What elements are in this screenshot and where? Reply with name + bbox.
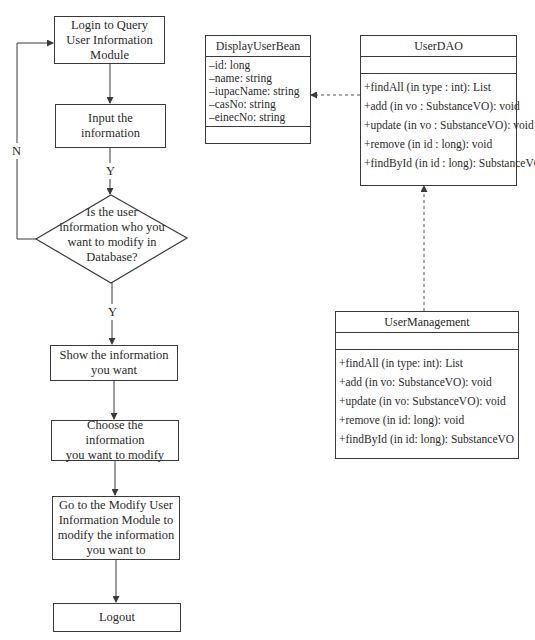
class-name: UserDAO: [361, 36, 516, 57]
step-input-line: information: [81, 126, 140, 141]
decision-line: Is the user: [50, 205, 174, 220]
step-show-line: Show the information: [59, 348, 168, 363]
class-name: UserManagement: [336, 312, 518, 333]
operation: +add (in vo: SubstanceVO): void: [339, 373, 515, 392]
label-yes-input: Y: [106, 163, 115, 179]
step-choose-line: Choose the information: [56, 418, 174, 448]
step-input: Input the information: [55, 104, 166, 148]
class-operations: +findAll (in type: int): List +add (in v…: [336, 350, 518, 453]
operation: +update (in vo: SubstanceVO): void: [339, 392, 515, 411]
operation: +add (in vo : SubstanceVO): void: [364, 97, 513, 116]
class-display-user-bean: DisplayUserBean –id: long –name: string …: [205, 35, 311, 144]
class-attributes: [336, 333, 518, 350]
decision-line: want to modify in: [50, 235, 174, 250]
step-modify-line: you want to: [58, 543, 175, 558]
operation: +findById (in id : long): SubstanceVO: [364, 154, 513, 173]
operation: +findAll (in type: int): List: [339, 354, 515, 373]
step-choose: Choose the information you want to modif…: [51, 420, 179, 461]
attribute: –id: long: [209, 59, 307, 72]
step-login-line: Login to Query: [66, 18, 152, 33]
step-show-line: you want: [59, 363, 168, 378]
class-user-management: UserManagement +findAll (in type: int): …: [335, 311, 519, 459]
decision-line: information who you: [50, 220, 174, 235]
step-modify-line: modify the information: [58, 528, 175, 543]
step-choose-line: you want to modify: [56, 448, 174, 463]
attribute: –casNo: string: [209, 98, 307, 111]
attribute: –name: string: [209, 72, 307, 85]
step-input-line: Input the: [81, 111, 140, 126]
step-show: Show the information you want: [50, 345, 178, 381]
decision-text: Is the user information who you want to …: [50, 205, 174, 265]
operation: +findAll (in type : int): List: [364, 78, 513, 97]
operation: +update (in vo : SubstanceVO): void: [364, 116, 513, 135]
class-name: DisplayUserBean: [206, 36, 310, 57]
class-attributes: [361, 57, 516, 74]
step-modify-line: Information Module to: [58, 513, 175, 528]
step-logout-line: Logout: [99, 610, 135, 625]
step-modify: Go to the Modify User Information Module…: [52, 496, 180, 560]
step-login-line: User Information: [66, 33, 152, 48]
class-attributes: –id: long –name: string –iupacName: stri…: [206, 57, 310, 127]
operation: +findById (in id: long): SubstanceVO: [339, 430, 515, 449]
step-modify-line: Go to the Modify User: [58, 498, 175, 513]
step-login: Login to Query User Information Module: [54, 16, 165, 64]
decision-line: Database?: [50, 250, 174, 265]
class-operations: +findAll (in type : int): List +add (in …: [361, 74, 516, 177]
attribute: –einecNo: string: [209, 111, 307, 124]
arrow-no-loop: [17, 43, 53, 239]
operation: +remove (in id: long): void: [339, 411, 515, 430]
operation: +remove (in id : long): void: [364, 135, 513, 154]
label-yes-decision: Y: [108, 304, 117, 320]
attribute: –iupacName: string: [209, 85, 307, 98]
step-login-line: Module: [66, 48, 152, 63]
class-user-dao: UserDAO +findAll (in type : int): List +…: [360, 35, 517, 186]
label-no: N: [12, 143, 21, 159]
step-logout: Logout: [53, 603, 181, 632]
